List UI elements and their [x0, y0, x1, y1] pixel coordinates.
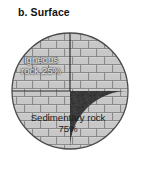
pie-chart: [0, 0, 141, 170]
figure-panel: b. Surface: [0, 0, 141, 170]
pie-chart-svg: [0, 0, 141, 170]
